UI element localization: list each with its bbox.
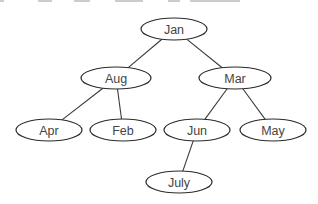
node-label: Jan <box>164 23 184 37</box>
node-july: July <box>146 171 212 193</box>
edge-jun-july <box>183 141 193 171</box>
node-label: Aug <box>105 72 127 86</box>
node-mar: Mar <box>199 67 271 89</box>
edge-aug-apr <box>62 88 103 120</box>
node-label: Mar <box>224 72 246 86</box>
tree-nodes: JanAugMarAprFebJunMayJuly <box>16 18 306 193</box>
node-label: Feb <box>112 124 134 138</box>
node-jan: Jan <box>141 18 207 40</box>
node-feb: Feb <box>90 119 156 141</box>
node-apr: Apr <box>16 119 82 141</box>
tree-edges <box>62 39 265 171</box>
edge-jan-mar <box>187 39 223 68</box>
node-may: May <box>240 119 306 141</box>
node-aug: Aug <box>81 67 151 89</box>
node-jun: Jun <box>164 119 230 141</box>
node-label: July <box>168 176 191 190</box>
edge-aug-feb <box>117 89 121 119</box>
node-label: Jun <box>187 124 207 138</box>
edge-mar-may <box>243 89 265 120</box>
edge-mar-jun <box>205 89 227 120</box>
node-label: May <box>261 124 285 138</box>
tree-diagram: JanAugMarAprFebJunMayJuly <box>0 0 318 204</box>
edge-jan-aug <box>128 39 162 67</box>
node-label: Apr <box>39 124 58 138</box>
